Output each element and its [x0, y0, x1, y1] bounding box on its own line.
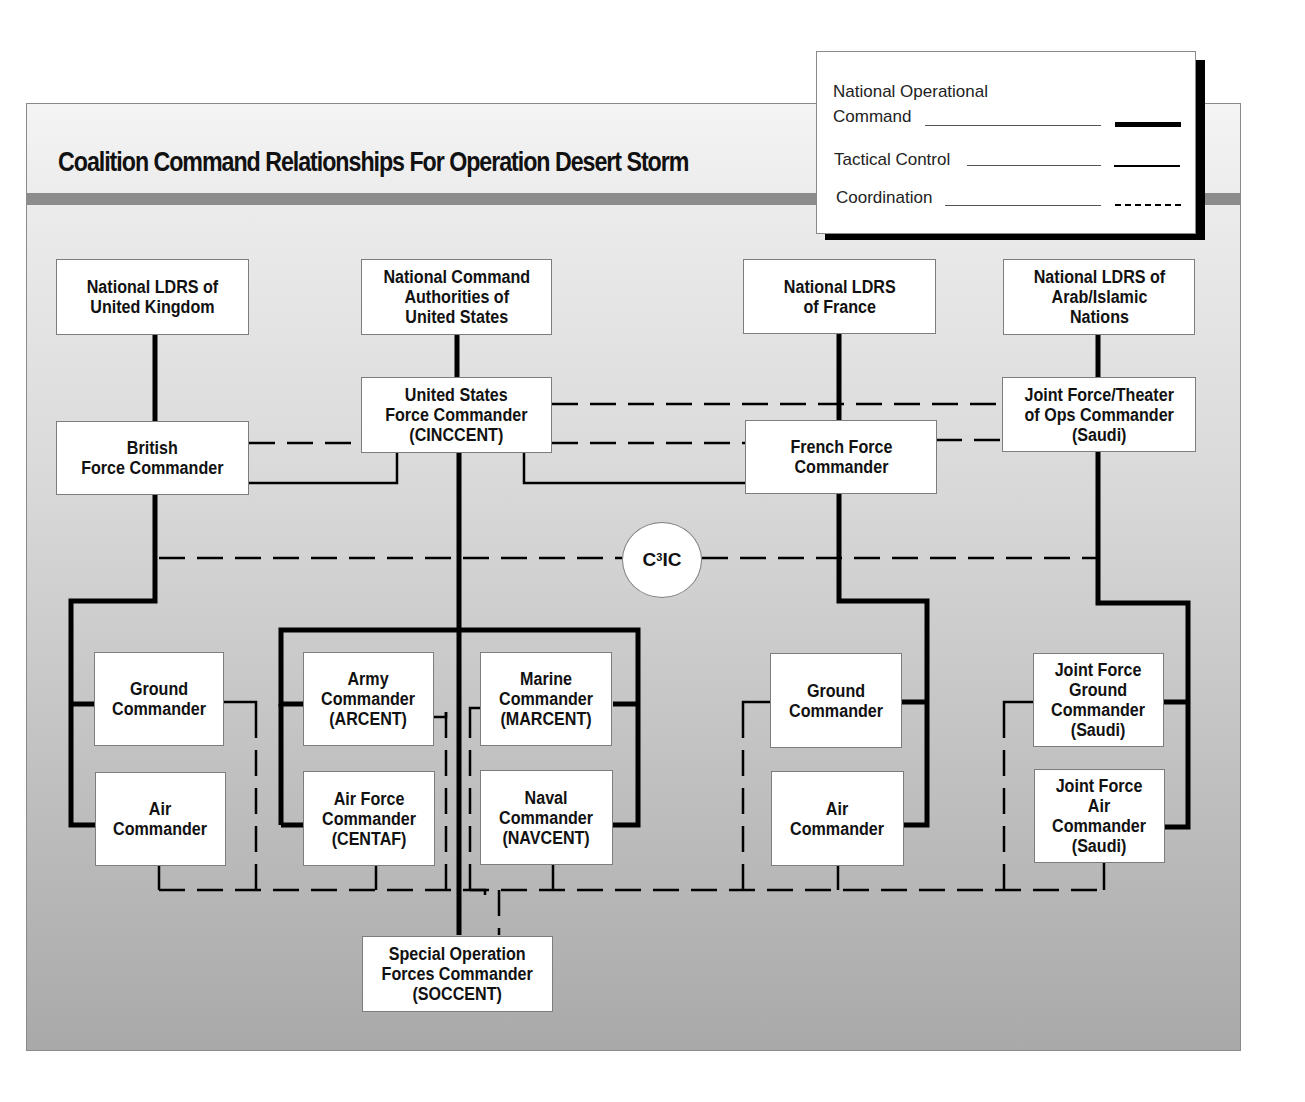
c3ic-suffix: IC: [662, 549, 681, 571]
legend-leader-line: [967, 165, 1101, 166]
c3ic-superscript: 3: [656, 551, 662, 563]
node-label: National LDRS of France: [784, 277, 896, 317]
node-label: Air Commander: [114, 799, 208, 839]
node-label: Naval Commander (NAVCENT): [500, 788, 594, 848]
node-uk-air-commander: Air Commander: [95, 772, 226, 866]
node-marine-commander-marcent: Marine Commander (MARCENT): [480, 652, 612, 746]
node-label: Ground Commander: [789, 681, 883, 721]
node-label: Special Operation Forces Commander (SOCC…: [382, 944, 533, 1004]
legend-label-national-command: National Operational Command: [833, 79, 988, 129]
legend-dashed-line-sample: [1115, 204, 1181, 206]
node-label: United States Force Commander (CINCCENT): [385, 385, 527, 445]
legend-label-tactical-control: Tactical Control: [834, 147, 950, 172]
node-uk-ground-commander: Ground Commander: [94, 652, 224, 746]
legend-thick-line-sample: [1115, 122, 1181, 127]
node-french-force-commander: French Force Commander: [745, 420, 937, 494]
node-us-national-command-authorities: National Command Authorities of United S…: [361, 259, 552, 335]
node-label: French Force Commander: [790, 437, 892, 477]
node-joint-force-ground-commander: Joint Force Ground Commander (Saudi): [1033, 653, 1164, 747]
node-c3ic: C3IC: [622, 522, 702, 598]
node-france-air-commander: Air Commander: [771, 771, 904, 866]
tactical-control-lines: [249, 452, 746, 483]
node-france-national-leaders: National LDRS of France: [743, 259, 936, 334]
legend-leader-line: [945, 205, 1101, 206]
node-label: Marine Commander (MARCENT): [499, 669, 593, 729]
node-soccent: Special Operation Forces Commander (SOCC…: [362, 936, 553, 1012]
node-naval-commander-navcent: Naval Commander (NAVCENT): [480, 770, 613, 865]
node-label: Joint Force Ground Commander (Saudi): [1052, 660, 1146, 740]
node-joint-force-theater-commander: Joint Force/Theater of Ops Commander (Sa…: [1002, 377, 1196, 452]
node-france-ground-commander: Ground Commander: [770, 653, 902, 748]
node-label: Army Commander (ARCENT): [322, 669, 416, 729]
node-label: Air Force Commander (CENTAF): [322, 789, 416, 849]
node-label: British Force Commander: [81, 438, 223, 478]
legend: National Operational Command Tactical Co…: [816, 51, 1196, 234]
node-label: National LDRS of United Kingdom: [87, 277, 218, 317]
legend-leader-line: [925, 125, 1101, 126]
node-label: National LDRS of Arab/Islamic Nations: [1033, 267, 1164, 327]
node-label: National Command Authorities of United S…: [383, 267, 530, 327]
node-us-force-commander-cinccent: United States Force Commander (CINCCENT): [361, 377, 552, 453]
node-joint-force-air-commander: Joint Force Air Commander (Saudi): [1034, 769, 1165, 863]
node-label: Joint Force/Theater of Ops Commander (Sa…: [1024, 385, 1173, 445]
legend-thin-line-sample: [1114, 165, 1180, 167]
legend-label-coordination: Coordination: [836, 185, 932, 210]
node-army-commander-arcent: Army Commander (ARCENT): [303, 652, 434, 746]
node-air-force-commander-centaf: Air Force Commander (CENTAF): [303, 771, 435, 866]
node-uk-national-leaders: National LDRS of United Kingdom: [56, 259, 249, 335]
node-british-force-commander: British Force Commander: [56, 421, 249, 495]
node-label: Ground Commander: [112, 679, 206, 719]
coordination-stubs: [159, 702, 1104, 895]
c3ic-label: C: [643, 549, 657, 571]
node-arab-islamic-national-leaders: National LDRS of Arab/Islamic Nations: [1003, 259, 1195, 335]
node-label: Joint Force Air Commander (Saudi): [1053, 776, 1147, 856]
node-label: Air Commander: [791, 799, 885, 839]
